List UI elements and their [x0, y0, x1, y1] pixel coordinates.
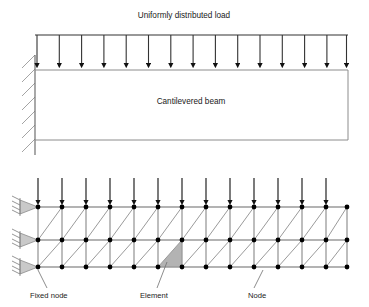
- wall-hatch-top: [22, 55, 35, 152]
- cantilever-beam-fem-figure: Uniformly distributed load: [0, 0, 369, 307]
- mesh-load-arrows: [38, 178, 326, 203]
- uniform-load-arrows: [37, 35, 347, 66]
- leader-node: [254, 270, 263, 288]
- node-label: Node: [248, 291, 266, 300]
- mesh-horizontals: [38, 207, 347, 267]
- fixed-support-top: [12, 196, 38, 216]
- fixed-node-label: Fixed node: [30, 291, 68, 300]
- uniform-load-title: Uniformly distributed load: [138, 11, 231, 20]
- element-label: Element: [140, 291, 169, 300]
- mesh-verticals: [38, 207, 347, 267]
- leader-fixed-node: [38, 270, 47, 288]
- fixed-support-middle: [12, 229, 38, 249]
- mesh-panel: Fixed node Element Node: [12, 178, 349, 300]
- beam-label: Cantilevered beam: [157, 97, 226, 106]
- mesh-diagonals: [38, 207, 347, 267]
- figure-canvas: Uniformly distributed load: [0, 0, 369, 307]
- fixed-supports: [12, 196, 38, 276]
- fixed-support-bottom: [12, 256, 38, 276]
- continuum-beam-panel: Uniformly distributed load: [22, 11, 348, 155]
